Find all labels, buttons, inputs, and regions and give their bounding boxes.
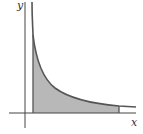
area-under-curve-diagram: y x bbox=[0, 0, 143, 134]
shaded-region bbox=[33, 35, 119, 113]
x-axis-label: x bbox=[131, 116, 138, 129]
y-axis-label: y bbox=[16, 0, 24, 12]
